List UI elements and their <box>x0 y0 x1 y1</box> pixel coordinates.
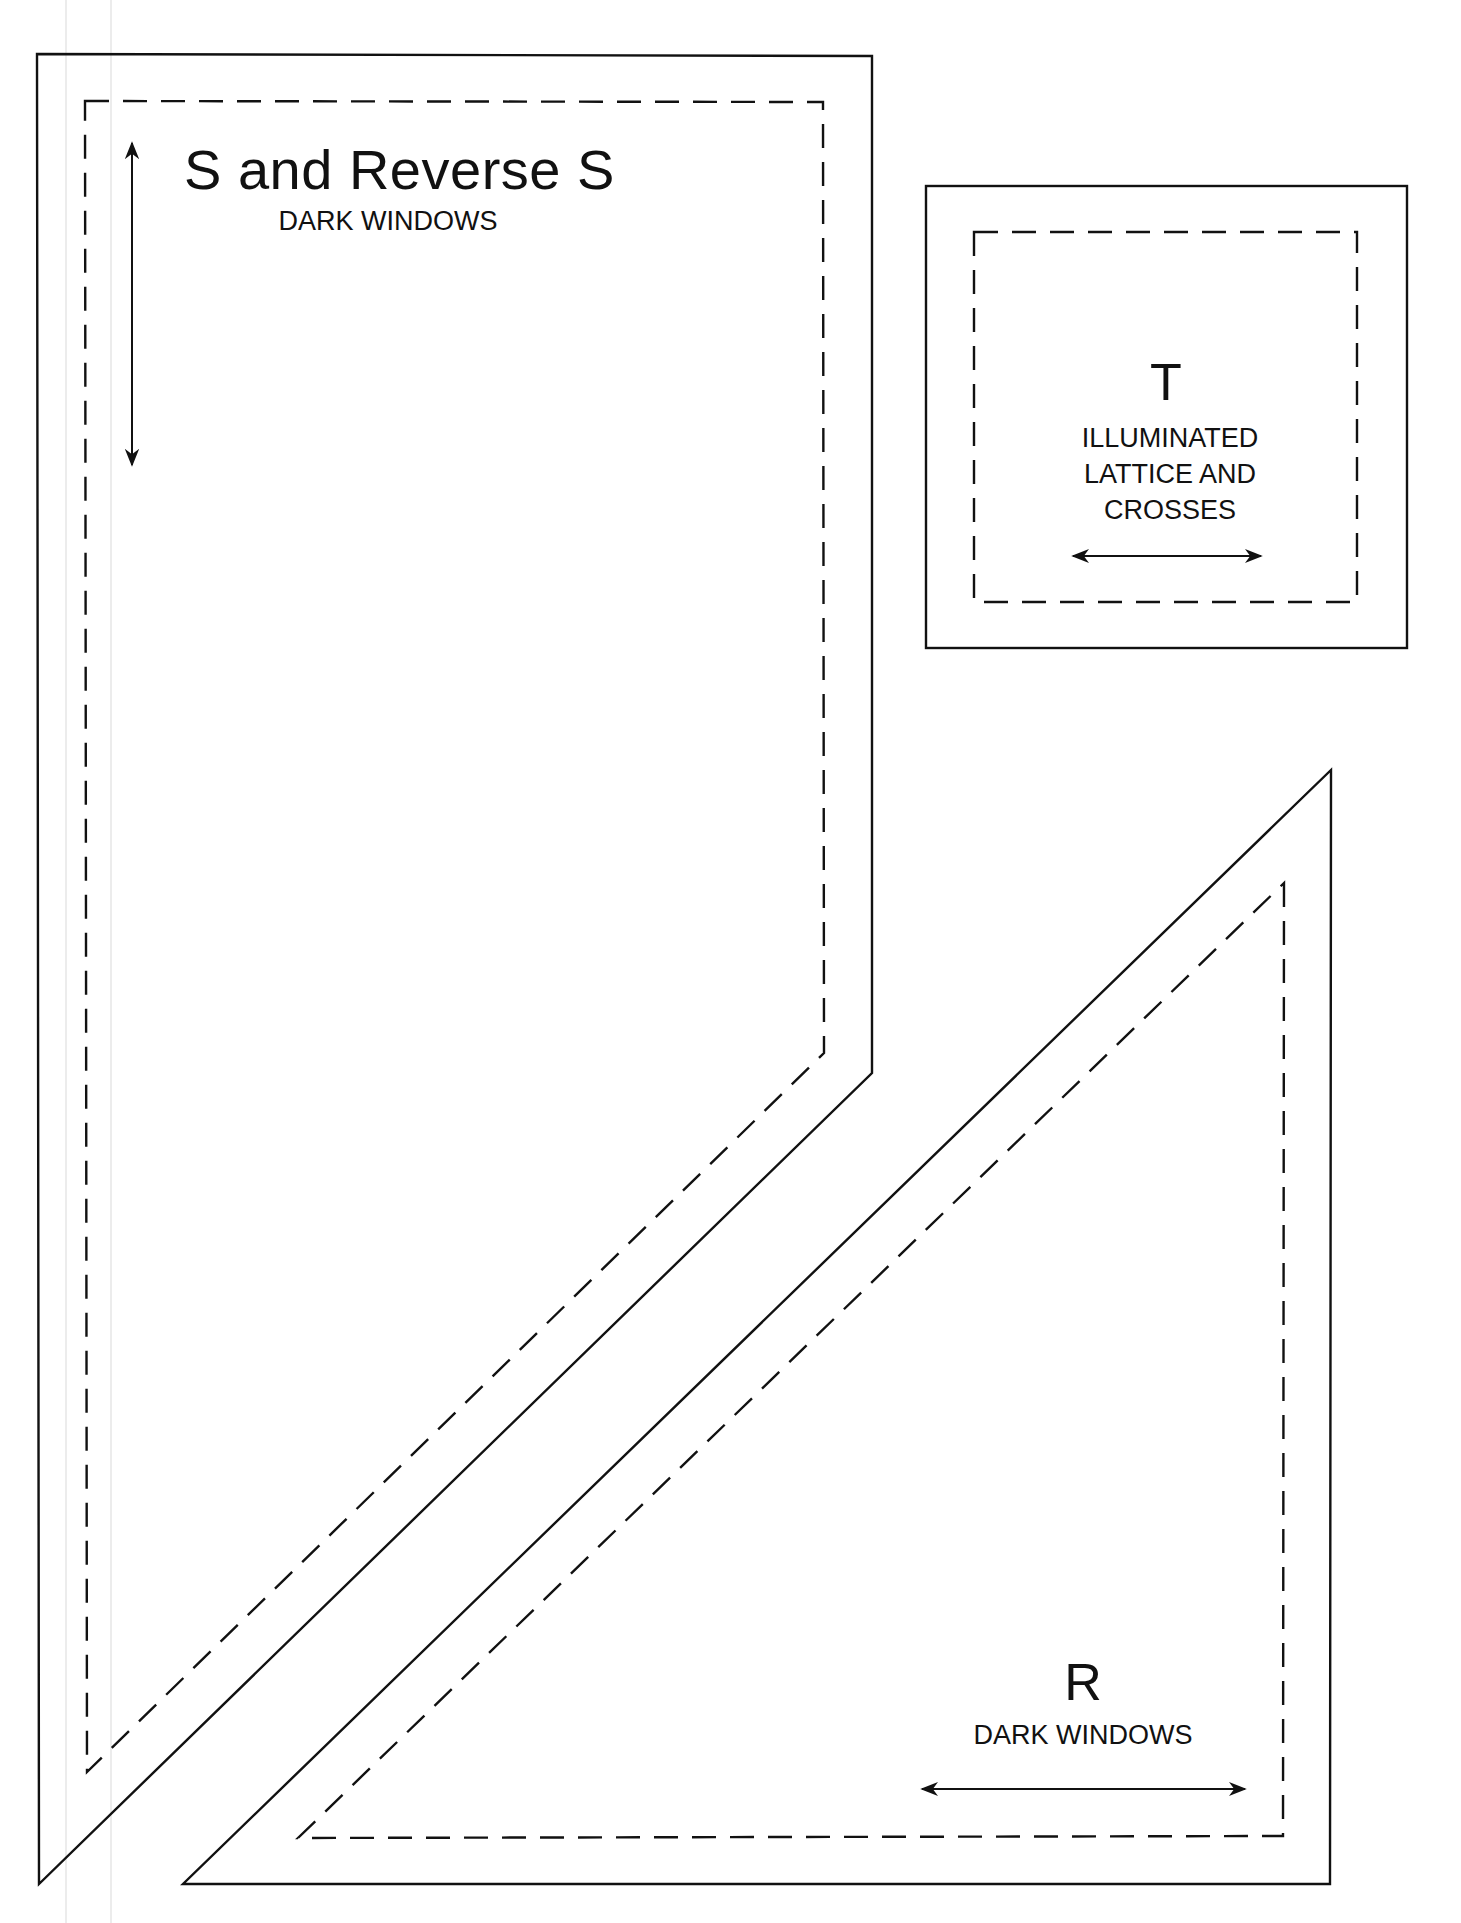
piece-t-subtitle-line-3: CROSSES <box>1030 492 1310 528</box>
piece-s-subtitle: DARK WINDOWS <box>240 208 536 235</box>
piece-t-cut-line <box>926 186 1407 648</box>
piece-s-cut-line <box>37 54 872 1884</box>
piece-t-subtitle-line-1: ILLUMINATED <box>1030 420 1310 456</box>
piece-s-title: S and Reverse S <box>184 142 590 198</box>
piece-t-seam-line <box>974 232 1357 602</box>
piece-t-subtitle-line-2: LATTICE AND <box>1030 456 1310 492</box>
template-canvas <box>0 0 1461 1923</box>
piece-r-seam-line <box>298 883 1284 1838</box>
piece-s-seam-line <box>85 101 824 1772</box>
piece-r-title: R <box>1033 1656 1133 1708</box>
piece-t-title: T <box>1116 356 1216 408</box>
piece-r-subtitle: DARK WINDOWS <box>935 1722 1231 1749</box>
piece-r-cut-line <box>183 770 1331 1884</box>
